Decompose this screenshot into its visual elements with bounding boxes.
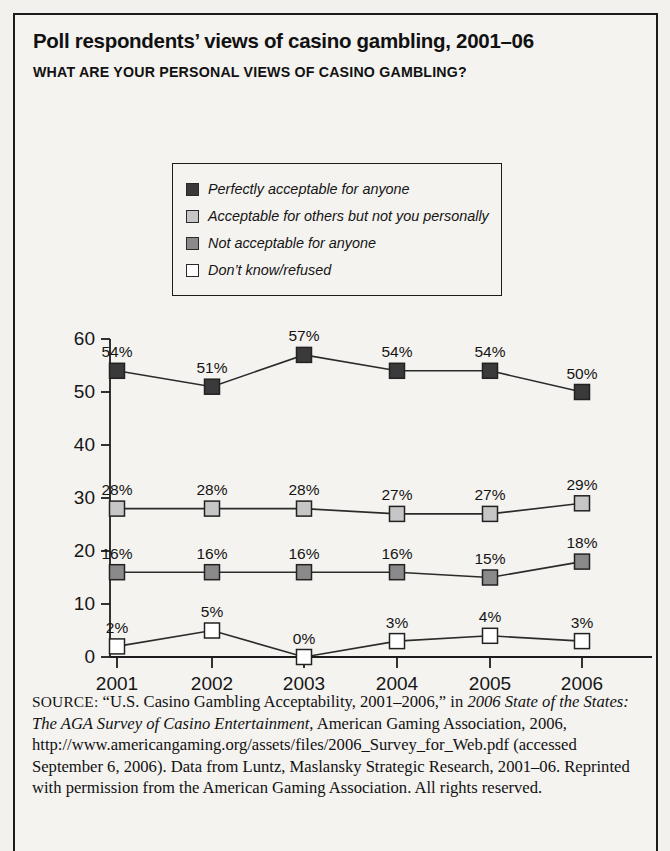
series-line	[117, 355, 582, 392]
data-point-marker[interactable]	[297, 565, 312, 580]
data-point-label: 16%	[371, 545, 423, 563]
title-block: Poll respondents’ views of casino gambli…	[33, 29, 633, 80]
data-point-marker[interactable]	[575, 385, 590, 400]
y-axis-tick-label: 40	[53, 434, 95, 456]
y-axis-tick-label: 20	[53, 540, 95, 562]
y-axis-tick-label: 60	[53, 328, 95, 350]
data-point-marker[interactable]	[110, 639, 125, 654]
legend-item-label: Acceptable for others but not you person…	[208, 209, 489, 223]
data-point-marker[interactable]	[575, 634, 590, 649]
data-point-marker[interactable]	[390, 363, 405, 378]
data-point-marker[interactable]	[483, 570, 498, 585]
data-point-marker[interactable]	[483, 628, 498, 643]
data-point-label: 27%	[371, 486, 423, 504]
data-point-label: 54%	[464, 343, 516, 361]
y-axis-tick-label: 50	[53, 381, 95, 403]
data-point-label: 4%	[464, 608, 516, 626]
y-axis-tick-label: 30	[53, 487, 95, 509]
data-point-marker[interactable]	[297, 501, 312, 516]
chart-svg	[15, 15, 658, 715]
series-line	[117, 562, 582, 578]
data-point-label: 28%	[186, 481, 238, 499]
data-point-marker[interactable]	[110, 501, 125, 516]
chart-subtitle: WHAT ARE YOUR PERSONAL VIEWS OF CASINO G…	[33, 64, 633, 80]
data-point-label: 15%	[464, 550, 516, 568]
legend-swatch-icon	[186, 210, 199, 223]
data-point-marker[interactable]	[110, 363, 125, 378]
data-point-label: 57%	[278, 327, 330, 345]
y-axis-tick-label: 10	[53, 593, 95, 615]
data-point-label: 54%	[91, 343, 143, 361]
chart-legend: Perfectly acceptable for anyoneAcceptabl…	[172, 163, 502, 296]
data-point-label: 28%	[278, 481, 330, 499]
legend-swatch-icon	[186, 183, 199, 196]
series-line	[117, 631, 582, 658]
legend-item-label: Don’t know/refused	[208, 263, 331, 277]
data-point-marker[interactable]	[205, 623, 220, 638]
data-point-label: 16%	[91, 545, 143, 563]
data-point-label: 2%	[91, 619, 143, 637]
data-point-marker[interactable]	[575, 554, 590, 569]
data-point-marker[interactable]	[390, 565, 405, 580]
legend-item[interactable]: Acceptable for others but not you person…	[186, 203, 501, 230]
page-title: Poll respondents’ views of casino gambli…	[33, 29, 633, 53]
source-note: SOURCE: “U.S. Casino Gambling Acceptabil…	[32, 691, 647, 799]
y-axis-tick-label: 0	[53, 646, 95, 668]
data-point-label: 27%	[464, 486, 516, 504]
data-point-marker[interactable]	[390, 634, 405, 649]
data-point-marker[interactable]	[297, 347, 312, 362]
data-point-marker[interactable]	[205, 379, 220, 394]
data-point-marker[interactable]	[483, 506, 498, 521]
data-point-label: 51%	[186, 359, 238, 377]
data-point-label: 29%	[556, 476, 608, 494]
legend-item[interactable]: Don’t know/refused	[186, 257, 501, 284]
data-point-label: 28%	[91, 481, 143, 499]
data-point-marker[interactable]	[110, 565, 125, 580]
data-point-label: 16%	[186, 545, 238, 563]
legend-swatch-icon	[186, 264, 199, 277]
chart-plot-area: 010203040506020012002200320042005200654%…	[15, 15, 658, 715]
data-point-marker[interactable]	[205, 501, 220, 516]
data-point-marker[interactable]	[297, 650, 312, 665]
data-point-label: 3%	[371, 614, 423, 632]
data-point-marker[interactable]	[390, 506, 405, 521]
data-point-marker[interactable]	[483, 363, 498, 378]
legend-item[interactable]: Not acceptable for anyone	[186, 230, 501, 257]
data-point-label: 5%	[186, 603, 238, 621]
data-point-marker[interactable]	[575, 496, 590, 511]
figure-frame: Poll respondents’ views of casino gambli…	[13, 13, 658, 851]
legend-swatch-icon	[186, 237, 199, 250]
data-point-label: 54%	[371, 343, 423, 361]
source-label: SOURCE:	[32, 693, 98, 710]
data-point-marker[interactable]	[205, 565, 220, 580]
data-point-label: 3%	[556, 614, 608, 632]
legend-item-label: Perfectly acceptable for anyone	[208, 182, 410, 196]
data-point-label: 0%	[278, 630, 330, 648]
data-point-label: 50%	[556, 365, 608, 383]
series-line	[117, 503, 582, 514]
data-point-label: 18%	[556, 534, 608, 552]
legend-item[interactable]: Perfectly acceptable for anyone	[186, 176, 501, 203]
data-point-label: 16%	[278, 545, 330, 563]
source-text-1: “U.S. Casino Gambling Acceptability, 200…	[98, 692, 467, 711]
legend-item-label: Not acceptable for anyone	[208, 236, 376, 250]
